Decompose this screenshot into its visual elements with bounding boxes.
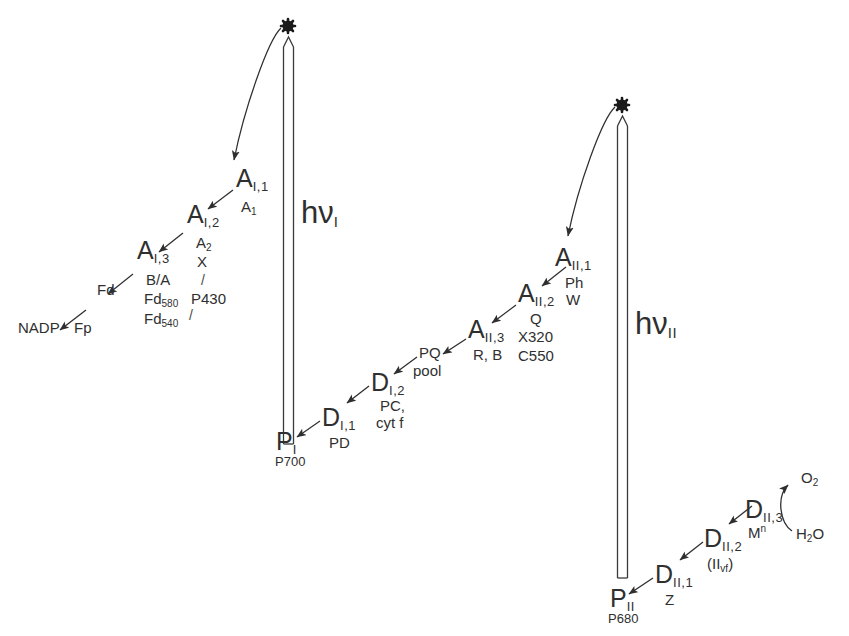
psi-photon-arrow	[284, 37, 294, 444]
alias-PD: PD	[329, 435, 350, 450]
alias-slash-1: /	[201, 273, 205, 287]
arrow-DI2-to-DI1	[347, 386, 369, 403]
psi-excitation-transfer-arrow	[234, 28, 281, 160]
acceptor-A-I-1: AI,1	[236, 166, 269, 193]
alias-Mn: Mn	[748, 524, 766, 540]
reaction-center-P-I: PI	[276, 429, 297, 456]
alias-Fd580: Fd580	[144, 291, 178, 309]
alias-P680: P680	[608, 612, 638, 625]
carrier-NADP: NADP	[18, 320, 60, 335]
alias-X: X	[197, 254, 207, 269]
psii-excited-star	[615, 98, 629, 112]
alias-A2: A2	[196, 235, 212, 253]
psii-excitation-transfer-arrow	[568, 107, 615, 236]
donor-D-I-1: DI,1	[322, 405, 356, 432]
alias-C550: C550	[518, 348, 554, 363]
arrow-DII2-to-DII1	[680, 542, 703, 560]
alias-Q: Q	[530, 311, 542, 326]
substrate-H2O: H2O	[796, 526, 824, 544]
carrier-Fd: Fd	[97, 282, 115, 297]
product-O2: O2	[801, 470, 818, 488]
z-scheme-diagram: AI,1 AI,2 AI,3 A1 / P430 A2 X B/A Fd580 …	[0, 0, 849, 636]
photon-label-hv-I: hνI	[301, 197, 338, 229]
alias-P430: P430	[191, 291, 226, 306]
alias-slash-2: /	[189, 308, 193, 322]
alias-B-over-A: B/A	[146, 272, 170, 287]
pq-pool-line2: pool	[413, 363, 441, 378]
acceptor-A-II-2: AII,2	[518, 281, 555, 308]
donor-D-II-1: DII,1	[655, 562, 693, 589]
acceptor-A-I-3: AI,3	[137, 238, 170, 265]
acceptor-A-I-2: AI,2	[187, 202, 220, 229]
alias-II-vf: (IIvf)	[707, 556, 733, 574]
psi-excited-star	[281, 19, 295, 33]
donor-D-I-2: DI,2	[371, 370, 405, 397]
alias-X320: X320	[518, 329, 553, 344]
donor-D-II-2: DII,2	[704, 526, 742, 553]
alias-PC: PC,	[380, 398, 405, 413]
alias-A1: A1	[241, 199, 257, 217]
arrow-DI1-to-PI	[297, 421, 320, 437]
alias-P700: P700	[275, 455, 305, 468]
psii-photon-arrow	[618, 116, 628, 578]
alias-cyt-f: cyt f	[376, 415, 404, 430]
reaction-center-P-II: PII	[610, 586, 635, 613]
alias-R-B: R, B	[473, 347, 502, 362]
alias-Ph: Ph	[565, 275, 583, 290]
alias-Z: Z	[665, 592, 674, 607]
acceptor-A-II-3: AII,3	[468, 317, 505, 344]
arrow-AII3-to-PQpool	[443, 339, 466, 354]
carrier-Fp: Fp	[74, 320, 92, 335]
photon-label-hv-II: hνII	[635, 308, 677, 340]
acceptor-A-II-1: AII,1	[555, 245, 592, 272]
pq-pool-line1: PQ	[419, 345, 441, 360]
alias-W: W	[566, 292, 580, 307]
donor-D-II-3: DII,3	[745, 497, 783, 524]
alias-Fd540: Fd540	[144, 311, 178, 329]
